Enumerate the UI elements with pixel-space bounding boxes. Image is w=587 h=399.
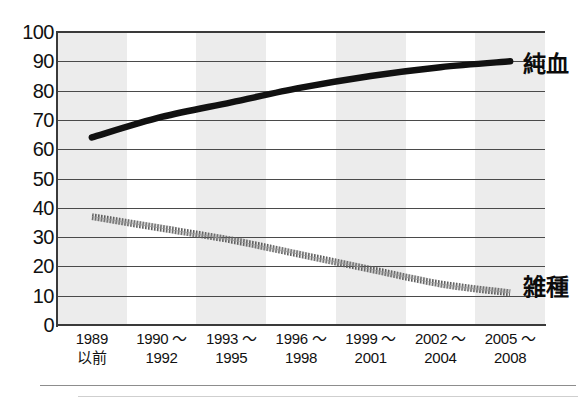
x-tick-label-line1: 1990 〜	[127, 330, 197, 349]
chart-root: 1009080706050403020100 1989以前1990 〜19921…	[0, 0, 587, 399]
series-label-mixed: 雑種	[523, 268, 569, 302]
x-tick-label-line2: 2001	[336, 349, 406, 368]
x-tick-label-line1: 1989	[57, 330, 127, 349]
y-tick-label: 90	[2, 51, 54, 71]
y-tick-label: 100	[2, 22, 54, 42]
x-tick-label: 1989以前	[57, 330, 127, 368]
y-tick-label: 0	[2, 315, 54, 335]
x-tick-label: 2005 〜2008	[475, 330, 545, 368]
x-tick-label-line2: 1998	[266, 349, 336, 368]
plot-area	[57, 32, 545, 325]
series-label-pure: 純血	[523, 45, 569, 79]
y-tick-label: 80	[2, 81, 54, 101]
y-tick-label: 30	[2, 227, 54, 247]
x-tick-label-line2: 1995	[196, 349, 266, 368]
y-tick-label: 10	[2, 286, 54, 306]
x-tick-label-line1: 2002 〜	[406, 330, 476, 349]
y-tick-label: 40	[2, 198, 54, 218]
x-tick-label: 2002 〜2004	[406, 330, 476, 368]
y-tick-label: 50	[2, 169, 54, 189]
x-tick-label-line2: 2004	[406, 349, 476, 368]
x-tick-label-line2: 1992	[127, 349, 197, 368]
y-tick-labels: 1009080706050403020100	[0, 0, 54, 399]
series-svg	[57, 32, 545, 325]
footer-rule-secondary	[78, 396, 578, 397]
x-tick-label-line2: 以前	[57, 349, 127, 368]
x-tick-label: 1990 〜1992	[127, 330, 197, 368]
x-tick-label-line1: 1993 〜	[196, 330, 266, 349]
y-tick-label: 70	[2, 110, 54, 130]
y-tick-label: 60	[2, 139, 54, 159]
x-tick-label: 1996 〜1998	[266, 330, 336, 368]
x-axis	[56, 324, 546, 326]
series-line-pure	[92, 61, 510, 137]
y-tick-label: 20	[2, 256, 54, 276]
x-tick-label: 1999 〜2001	[336, 330, 406, 368]
y-axis	[56, 31, 58, 327]
x-tick-label-line1: 1996 〜	[266, 330, 336, 349]
x-tick-label-line2: 2008	[475, 349, 545, 368]
x-tick-label: 1993 〜1995	[196, 330, 266, 368]
x-tick-label-line1: 2005 〜	[475, 330, 545, 349]
x-tick-label-line1: 1999 〜	[336, 330, 406, 349]
footer-rule-primary	[40, 385, 576, 386]
series-layer	[57, 32, 545, 325]
